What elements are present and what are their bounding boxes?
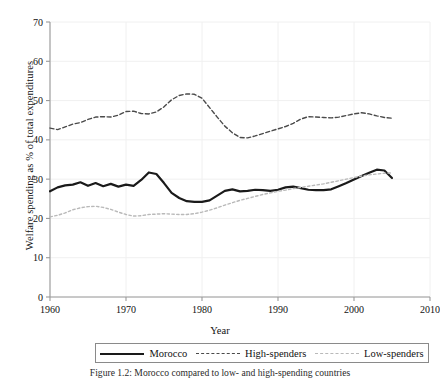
svg-text:0: 0 (38, 292, 43, 303)
legend-swatch-dashed-dark-icon (196, 348, 240, 358)
svg-text:1970: 1970 (116, 304, 136, 315)
y-axis-ticks: 010203040506070 (33, 17, 50, 303)
svg-text:1990: 1990 (268, 304, 288, 315)
svg-text:20: 20 (33, 213, 43, 224)
legend-label-morocco: Morocco (149, 348, 187, 359)
series-line-morocco (50, 170, 392, 202)
svg-text:2000: 2000 (344, 304, 364, 315)
axis-lines (50, 22, 430, 297)
x-axis-label: Year (0, 325, 440, 336)
svg-text:40: 40 (33, 134, 43, 145)
legend-item-low-spenders: Low-spenders (315, 348, 423, 359)
svg-text:10: 10 (33, 252, 43, 263)
svg-text:70: 70 (33, 17, 43, 28)
legend-swatch-dashed-light-icon (315, 348, 359, 358)
legend-label-low-spenders: Low-spenders (364, 348, 423, 359)
legend-item-morocco: Morocco (100, 348, 187, 359)
x-axis-ticks: 196019701980199020002010 (40, 297, 440, 315)
chart-canvas: 010203040506070 196019701980199020002010 (0, 0, 440, 379)
figure-container: 010203040506070 196019701980199020002010… (0, 0, 440, 379)
data-series-group (50, 94, 392, 217)
svg-text:1980: 1980 (192, 304, 212, 315)
svg-text:2010: 2010 (420, 304, 440, 315)
legend-label-high-spenders: High-spenders (245, 348, 306, 359)
chart-legend: Morocco High-spenders Low-spenders (95, 343, 429, 363)
y-axis-label: Welfare spending as % of total expenditu… (24, 31, 35, 281)
legend-item-high-spenders: High-spenders (196, 348, 306, 359)
legend-swatch-solid-icon (100, 348, 144, 358)
figure-caption: Figure 1.2: Morocco compared to low- and… (0, 367, 440, 378)
svg-text:50: 50 (33, 95, 43, 106)
gridlines (50, 22, 430, 297)
svg-text:30: 30 (33, 174, 43, 185)
svg-text:1960: 1960 (40, 304, 60, 315)
svg-text:60: 60 (33, 56, 43, 67)
